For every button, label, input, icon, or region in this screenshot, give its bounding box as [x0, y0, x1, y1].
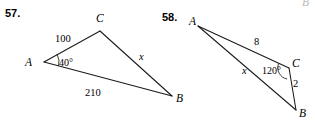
problem-57-angle-label-A: 40° — [59, 57, 73, 68]
problem-58-angle-label-C: 120° — [262, 65, 281, 76]
problem-number-58: 58. — [162, 11, 177, 23]
problem-58-group: 58. A C B 8 x 2 120° — [162, 11, 306, 119]
problem-57-side-label-AC: 100 — [55, 33, 71, 44]
problem-58-side-label-AB: x — [241, 65, 247, 76]
problem-58-side-AB — [198, 26, 296, 110]
problem-58-side-AC — [198, 26, 289, 68]
problem-57-vertex-label-C: C — [96, 12, 104, 24]
figure-page: 57. A C B 100 x 210 40° 58. — [0, 0, 315, 121]
clipped-letter-icon: B — [302, 0, 309, 8]
problem-58-side-label-AC: 8 — [254, 36, 259, 47]
problem-58-side-CB — [289, 68, 296, 110]
problem-57-side-label-CB: x — [138, 51, 144, 62]
problem-58-vertex-label-C: C — [292, 57, 300, 69]
problem-57-vertex-label-B: B — [176, 92, 183, 104]
problem-58-vertex-label-B: B — [299, 107, 306, 119]
geometry-figure-svg: 57. A C B 100 x 210 40° 58. — [0, 0, 315, 121]
problem-57-side-label-AB: 210 — [85, 87, 101, 98]
problem-number-57: 57. — [5, 7, 20, 19]
problem-57-group: 57. A C B 100 x 210 40° — [5, 7, 183, 104]
problem-58-side-label-CB: 2 — [293, 78, 298, 89]
problem-58-vertex-label-A: A — [188, 15, 197, 27]
problem-57-vertex-label-A: A — [24, 56, 33, 68]
